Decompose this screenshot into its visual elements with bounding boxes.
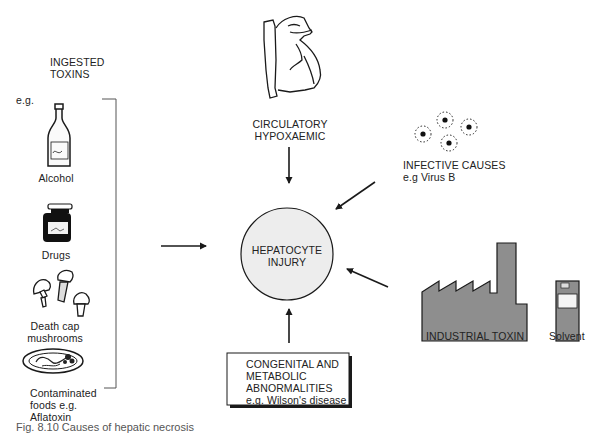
contaminated-label: Contaminated foods e.g. Aflatoxin — [30, 387, 97, 423]
hepatocyte-line2: INJURY — [247, 256, 327, 268]
alcohol-label: Alcohol — [24, 172, 88, 184]
drugs-label: Drugs — [24, 249, 88, 261]
infective-line2: e.g Virus B — [403, 171, 506, 183]
contaminated-label-line2: foods e.g. — [30, 399, 97, 411]
ingested-title-line1: INGESTED — [50, 56, 104, 68]
congenital-label: CONGENITAL AND METABOLIC ABNORMALITIES e… — [246, 358, 346, 406]
bottle-icon — [48, 104, 70, 166]
figure-caption: Fig. 8.10 Causes of hepatic necrosis — [16, 421, 194, 433]
medicine-jar-icon — [43, 204, 72, 242]
mushrooms-label-line2: mushrooms — [20, 332, 90, 344]
solvent-label: Solvent — [549, 330, 585, 342]
hepatocyte-label: HEPATOCYTE INJURY — [247, 244, 327, 268]
congenital-line4: e.g. Wilson's disease — [246, 394, 346, 406]
circulatory-label: CIRCULATORY HYPOXAEMIC — [246, 118, 334, 142]
congenital-line1: CONGENITAL AND — [246, 358, 346, 370]
infective-label: INFECTIVE CAUSES e.g Virus B — [403, 159, 506, 183]
contaminated-label-line1: Contaminated — [30, 387, 97, 399]
congenital-line2: METABOLIC — [246, 370, 346, 382]
circulatory-line2: HYPOXAEMIC — [246, 130, 334, 142]
food-plate-icon — [23, 349, 83, 373]
arrow-industrial — [347, 269, 388, 287]
mushrooms-icon — [34, 270, 90, 316]
ingested-bracket — [102, 99, 116, 388]
arrow-infective — [336, 182, 375, 209]
mushrooms-label: Death cap mushrooms — [20, 320, 90, 344]
ingested-title-line2: TOXINS — [50, 68, 104, 80]
factory-icon — [422, 243, 527, 341]
ingested-eg: e.g. — [16, 94, 34, 106]
heart-icon — [264, 16, 321, 98]
congenital-line3: ABNORMALITIES — [246, 382, 346, 394]
hepatocyte-line1: HEPATOCYTE — [247, 244, 327, 256]
circulatory-line1: CIRCULATORY — [246, 118, 334, 130]
mushrooms-label-line1: Death cap — [20, 320, 90, 332]
ingested-title: INGESTED TOXINS — [50, 56, 104, 80]
virus-icon — [415, 112, 477, 151]
industrial-toxin-label: INDUSTRIAL TOXIN — [426, 330, 524, 342]
infective-line1: INFECTIVE CAUSES — [403, 159, 506, 171]
